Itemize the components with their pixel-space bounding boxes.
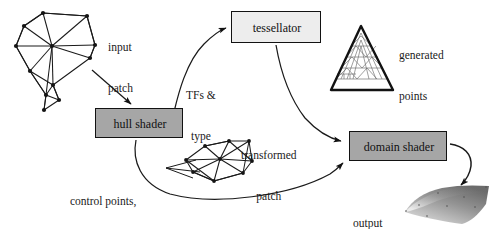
label-control-points: control points, TFs, & constants (64, 168, 142, 229)
label-input-patch: input patch (108, 14, 133, 122)
label-generated-points: generated points (399, 22, 444, 130)
output-mesh-surface (405, 185, 489, 224)
stage-label-tessellator: tessellator (232, 12, 322, 44)
stage-box-tessellator[interactable]: tessellator (231, 11, 321, 43)
label-tfs-and-type: TFs & type (186, 62, 216, 170)
label-transformed-patch: transformed patch (241, 122, 297, 229)
arrow-domain-to-output (450, 144, 471, 185)
label-generated-points-line1: generated (399, 49, 444, 63)
stage-box-domain-shader[interactable]: domain shader (349, 131, 447, 161)
label-transformed-patch-line1: transformed (241, 149, 297, 163)
label-input-patch-line2: patch (108, 82, 133, 96)
label-tfs-and-type-line2: type (186, 130, 216, 144)
input-patch-mesh (16, 13, 95, 110)
diagram-canvas: hull shader tessellator domain shader in… (0, 0, 495, 229)
arrow-hull-to-domain (135, 140, 343, 199)
stage-label-domain-shader: domain shader (350, 132, 448, 162)
label-transformed-patch-line2: patch (241, 190, 297, 204)
label-control-points-line1: control points, (64, 195, 142, 209)
label-tfs-and-type-line1: TFs & (186, 89, 216, 103)
label-output-mesh-line1: output (353, 217, 382, 229)
label-generated-points-line2: points (399, 90, 444, 104)
generated-points-triangle (331, 26, 393, 90)
label-input-patch-line1: input (108, 41, 133, 55)
label-output-mesh: output mesh (353, 190, 382, 229)
